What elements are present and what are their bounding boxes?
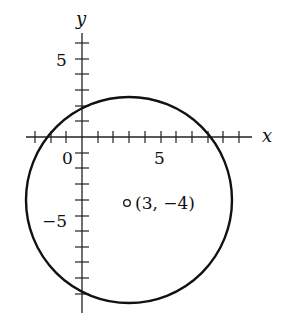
- center-label: (3, −4): [135, 193, 195, 213]
- x-axis-label: x: [262, 125, 272, 146]
- tick-label-origin: 0: [62, 148, 73, 168]
- coordinate-plane: y x 5 0 5 −5 (3, −4): [0, 0, 296, 333]
- y-axis-label: y: [75, 8, 87, 29]
- tick-label-x5: 5: [154, 148, 165, 168]
- center-point: [124, 200, 131, 207]
- tick-label-y5: 5: [56, 50, 67, 70]
- tick-label-y-neg5: −5: [42, 211, 67, 231]
